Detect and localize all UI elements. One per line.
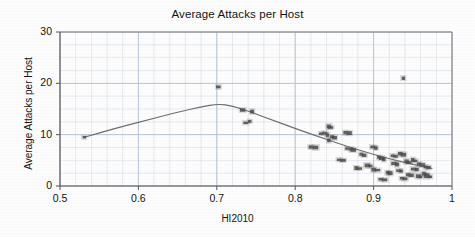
data-point: [346, 130, 353, 136]
data-point: [387, 170, 394, 176]
data-point: [249, 109, 255, 115]
data-point: [400, 152, 407, 158]
data-point-markers: [82, 76, 433, 183]
data-point: [394, 162, 400, 168]
plot-area: [0, 0, 475, 237]
data-point: [312, 145, 319, 151]
data-point: [215, 85, 221, 90]
data-point: [326, 138, 331, 144]
chart-figure: Average Attacks per Host Average Attacks…: [0, 0, 475, 237]
